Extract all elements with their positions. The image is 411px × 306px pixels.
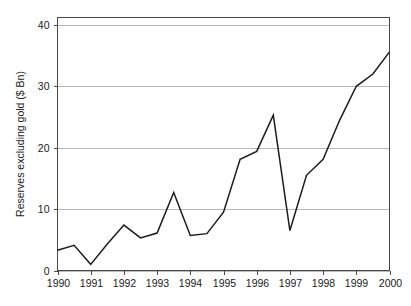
x-tick-label-1994: 1994 <box>179 277 203 289</box>
x-tick-label-1992: 1992 <box>113 277 137 289</box>
x-tick-label-1993: 1993 <box>146 277 170 289</box>
y-tick-label-40: 40 <box>38 19 50 31</box>
y-axis-title-group: Reserves excluding gold ($ Bn) <box>14 71 26 217</box>
y-tick-label-20: 20 <box>38 142 50 154</box>
x-tick-label-1996: 1996 <box>246 277 270 289</box>
x-tick-label-1995: 1995 <box>213 277 237 289</box>
y-tick-label-10: 10 <box>38 203 50 215</box>
y-tick-label-0: 0 <box>44 265 50 277</box>
y-axis-ticks: 010203040 <box>38 19 58 277</box>
reserves-line-chart: 010203040 199019911992199319941995199619… <box>0 0 411 306</box>
x-tick-label-2000: 2000 <box>379 277 403 289</box>
y-axis-title: Reserves excluding gold ($ Bn) <box>14 71 26 217</box>
x-tick-label-1998: 1998 <box>312 277 336 289</box>
x-tick-label-1991: 1991 <box>80 277 104 289</box>
x-tick-label-1997: 1997 <box>279 277 303 289</box>
chart-figure: 010203040 199019911992199319941995199619… <box>0 0 411 306</box>
x-tick-label-1990: 1990 <box>47 277 71 289</box>
plot-background <box>57 17 390 270</box>
x-axis-ticks: 1990199119921993199419951996199719981999… <box>47 271 403 289</box>
x-tick-label-1999: 1999 <box>345 277 369 289</box>
y-tick-label-30: 30 <box>38 80 50 92</box>
